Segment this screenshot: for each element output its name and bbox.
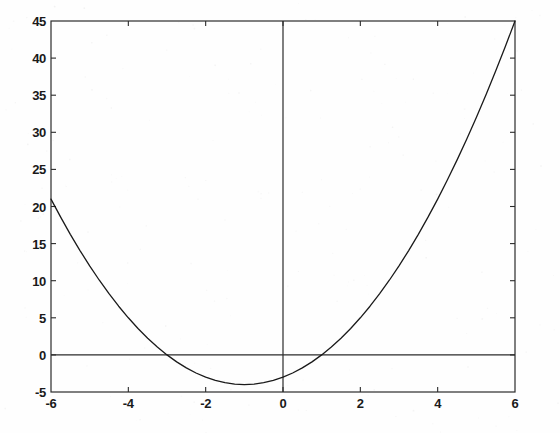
y-tick-label-20: 20 bbox=[32, 199, 46, 214]
x-tick-label-4: 4 bbox=[434, 396, 441, 411]
y-tick-label-0: 0 bbox=[39, 347, 46, 362]
y-tick-label-35: 35 bbox=[32, 88, 46, 103]
x-tick-label--4: -4 bbox=[123, 396, 134, 411]
y-tick-label-25: 25 bbox=[32, 162, 46, 177]
x-tick-label--6: -6 bbox=[46, 396, 57, 411]
y-tick-label-45: 45 bbox=[32, 14, 46, 29]
y-tick-label-5: 5 bbox=[39, 310, 46, 325]
y-tick-label-30: 30 bbox=[32, 125, 46, 140]
y-tick-label-15: 15 bbox=[32, 236, 46, 251]
y-tick-label--5: -5 bbox=[35, 385, 46, 400]
plot-canvas bbox=[0, 0, 560, 433]
x-tick-label--2: -2 bbox=[200, 396, 211, 411]
x-tick-label-6: 6 bbox=[512, 396, 519, 411]
reference-lines bbox=[51, 21, 515, 392]
y-tick-label-40: 40 bbox=[32, 51, 46, 66]
x-tick-label-0: 0 bbox=[280, 396, 287, 411]
y-tick-label-10: 10 bbox=[32, 273, 46, 288]
figure-container: -5051015202530354045 -6-4-20246 bbox=[0, 0, 560, 433]
x-tick-label-2: 2 bbox=[357, 396, 364, 411]
